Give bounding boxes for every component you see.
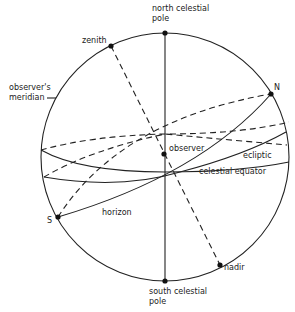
nadir-dot: [217, 262, 222, 267]
label-south-celestial-pole-line2: pole: [149, 297, 207, 307]
label-horizon: horizon: [102, 208, 132, 218]
label-nadir: nadir: [224, 263, 245, 273]
north-point-dot: [268, 91, 273, 96]
north-celestial-pole-dot: [162, 30, 167, 35]
label-north-celestial-pole-line2: pole: [152, 14, 209, 24]
label-south-celestial-pole-line1: south celestial: [149, 287, 207, 297]
label-observer: observer: [169, 144, 204, 154]
label-north-celestial-pole-line1: north celestial: [152, 4, 209, 14]
south-point-dot: [55, 214, 60, 219]
zenith-dot: [108, 43, 113, 48]
label-north-point: N: [274, 83, 280, 93]
south-celestial-pole-dot: [162, 278, 167, 283]
label-observers-meridian-line2: meridian: [9, 93, 51, 103]
label-north-celestial-pole: north celestial pole: [152, 4, 209, 24]
label-observers-meridian: observer's meridian: [9, 83, 51, 103]
celestial-sphere-diagram: north celestial pole zenith observer's m…: [0, 0, 295, 312]
label-south-celestial-pole: south celestial pole: [149, 287, 207, 307]
label-zenith: zenith: [82, 36, 107, 46]
label-observers-meridian-line1: observer's: [9, 83, 51, 93]
label-south-point: S: [47, 216, 52, 226]
label-celestial-equator: celestial equator: [199, 167, 266, 177]
observer-dot: [161, 151, 166, 156]
label-ecliptic: ecliptic: [243, 151, 272, 161]
